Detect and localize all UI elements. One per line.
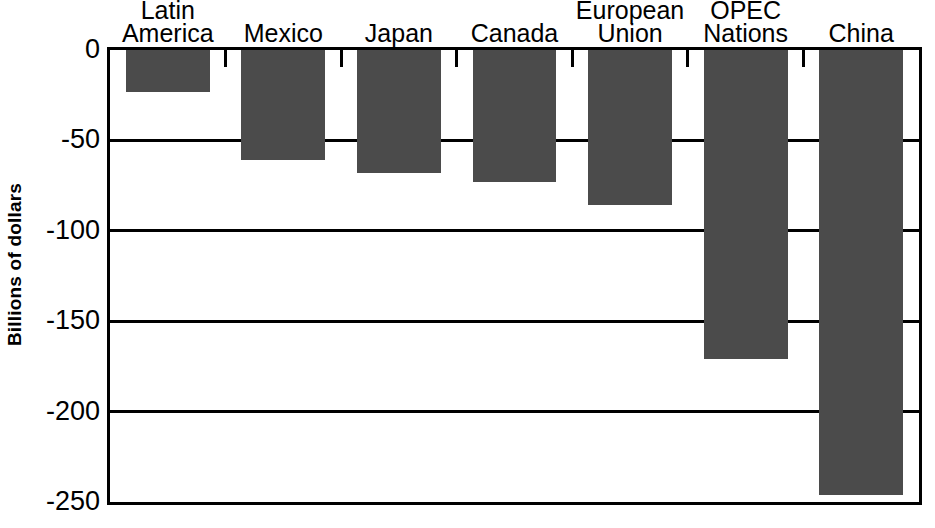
x-axis-tick-mark: [802, 50, 805, 67]
y-tick-label: -200: [8, 398, 100, 425]
y-tick-label: -100: [8, 217, 100, 244]
bar: [704, 50, 788, 359]
bar: [126, 50, 210, 92]
plot-inner: [110, 50, 919, 502]
bar: [819, 50, 903, 495]
gridline: [110, 229, 919, 232]
bar-chart: Billions of dollars 0-50-100-150-200-250…: [0, 0, 935, 528]
x-axis-category-labels: Latin AmericaMexicoJapanCanadaEuropean U…: [0, 0, 935, 47]
y-tick-label: -50: [8, 126, 100, 153]
bar: [588, 50, 672, 205]
y-tick-label: -150: [8, 307, 100, 334]
y-tick-label: -250: [8, 488, 100, 515]
x-axis-category-label: Canada: [457, 22, 573, 45]
plot-area: [107, 47, 922, 505]
x-axis-category-label: Japan: [341, 22, 457, 45]
x-axis-tick-mark: [340, 50, 343, 67]
x-axis-category-label: Mexico: [226, 22, 342, 45]
bar: [473, 50, 557, 182]
x-axis-tick-mark: [224, 50, 227, 67]
bar: [241, 50, 325, 160]
x-axis-tick-mark: [571, 50, 574, 67]
x-axis-category-label: European Union: [572, 0, 688, 45]
x-axis-category-label: Latin America: [110, 0, 226, 45]
gridline: [110, 320, 919, 323]
y-axis-tick-labels: 0-50-100-150-200-250: [0, 0, 100, 528]
x-axis-category-label: China: [803, 22, 919, 45]
x-axis-tick-mark: [686, 50, 689, 67]
gridline: [110, 410, 919, 413]
bar: [357, 50, 441, 173]
x-axis-tick-mark: [455, 50, 458, 67]
x-axis-category-label: OPEC Nations: [688, 0, 804, 45]
